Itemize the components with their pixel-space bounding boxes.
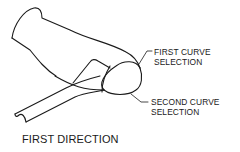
surface-sketch xyxy=(0,0,240,152)
leader-first xyxy=(139,51,152,64)
second-curve-selection-label: SECOND CURVE SELECTION xyxy=(151,97,220,117)
tube-upper-line xyxy=(15,76,100,114)
body-left-outline xyxy=(12,38,56,76)
sweep-curve xyxy=(55,76,104,90)
first-curve-selection-label: FIRST CURVE SELECTION xyxy=(154,47,211,67)
second-curve-label-line1: SECOND CURVE xyxy=(151,97,220,107)
tube-end xyxy=(15,114,26,122)
second-curve-label-line2: SELECTION xyxy=(151,107,220,117)
first-direction-caption: FIRST DIRECTION xyxy=(22,133,119,146)
first-curve-label-line2: SELECTION xyxy=(154,57,211,67)
tube-lower-line xyxy=(26,90,104,122)
second-curve xyxy=(104,68,142,95)
leader-second xyxy=(131,94,148,102)
first-curve-label-line1: FIRST CURVE xyxy=(154,47,211,57)
body-top-outline xyxy=(12,8,140,68)
